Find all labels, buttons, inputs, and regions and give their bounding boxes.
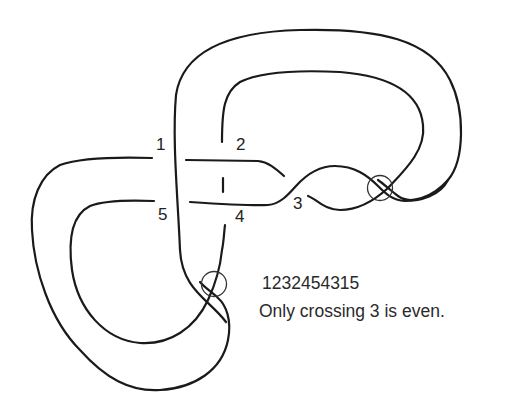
parity-note: Only crossing 3 is even. (259, 301, 445, 322)
left-outer-strand (32, 158, 230, 391)
crossing-label-1: 1 (156, 135, 165, 154)
gauss-sequence: 1232454315 (262, 273, 359, 294)
crossing-label-3: 3 (293, 194, 302, 213)
left-inner-strand (71, 201, 225, 344)
upper-middle-strand (186, 160, 284, 176)
virtual-knot-diagram: 1 2 3 4 5 (0, 0, 509, 411)
crossing-label-4: 4 (235, 207, 244, 226)
crossing-label-5: 5 (158, 205, 167, 224)
crossing-label-2: 2 (236, 135, 245, 154)
